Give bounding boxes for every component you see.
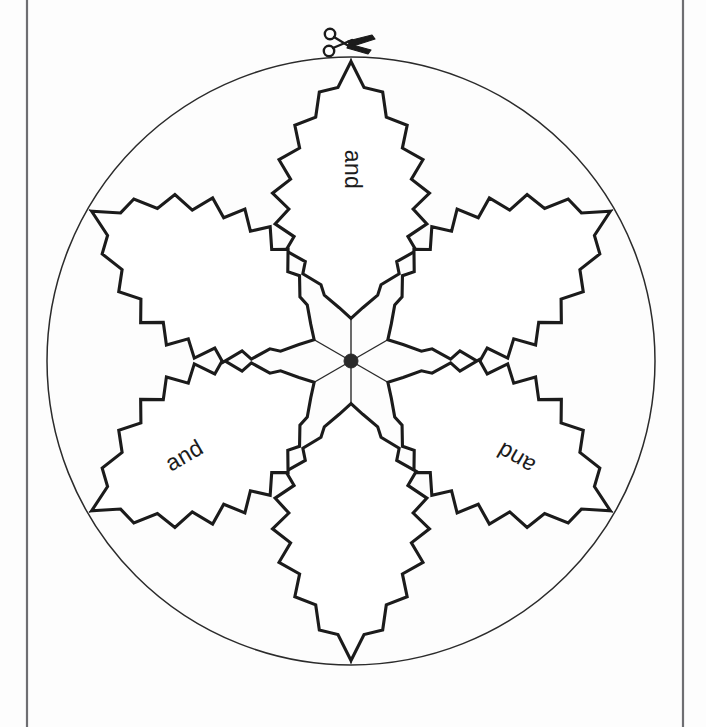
worksheet-page: andandand and and and — [0, 0, 706, 727]
wheel-center-hub — [344, 354, 358, 368]
worksheet-canvas: andandand — [0, 0, 706, 727]
petal-top-label: and — [340, 150, 366, 190]
